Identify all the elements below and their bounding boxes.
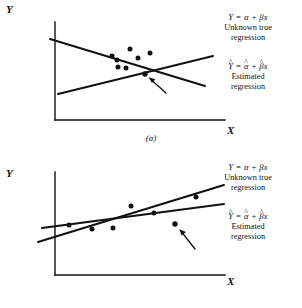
scatter-points-a: [110, 47, 153, 77]
formula-estimated-regression-a: ^Y = ^α + ^βx: [196, 61, 300, 71]
annotation-estimated-regression-a: ^Y = ^α + ^βx Estimated regression: [196, 61, 300, 92]
annotation-unknown-true-regression-a: Y = α + βx Unknown true regression: [196, 12, 300, 43]
data-point: [128, 47, 133, 52]
data-point-outlier: [142, 71, 147, 76]
data-point: [136, 56, 141, 61]
caption-line: Estimated: [196, 222, 300, 232]
data-point: [67, 223, 72, 228]
data-point: [110, 54, 115, 59]
caption-line: Unknown true: [196, 173, 300, 183]
panel-caption-a: (a): [0, 133, 302, 143]
caption-line: Estimated: [196, 72, 300, 82]
y-axis-label-b: Y: [6, 168, 13, 179]
caption-estimated-regression-a: Estimated regression: [196, 72, 300, 92]
annotation-estimated-regression-b: ^Y = ^α + ^βx Estimated regression: [196, 211, 300, 242]
caption-line: regression: [196, 33, 300, 43]
data-point-outlier: [172, 221, 177, 226]
data-point: [116, 65, 121, 70]
estimated-regression-line-a: [50, 39, 205, 86]
formula-true-regression-a: Y = α + βx: [196, 12, 300, 22]
true-regression-line-a: [58, 56, 213, 94]
outlier-arrow-b: [179, 229, 195, 249]
caption-unknown-true-regression-b: Unknown true regression: [196, 173, 300, 193]
data-point: [148, 51, 153, 56]
data-point: [194, 195, 199, 200]
data-point: [152, 211, 157, 216]
formula-true-regression-b: Y = α + βx: [196, 162, 300, 172]
caption-line: regression: [196, 183, 300, 193]
caption-line: regression: [196, 232, 300, 242]
annotation-unknown-true-regression-b: Y = α + βx Unknown true regression: [196, 162, 300, 193]
data-point: [90, 227, 95, 232]
data-point: [129, 204, 134, 209]
x-axis-label-b: X: [227, 276, 234, 287]
y-axis-label-a: Y: [6, 4, 13, 15]
data-point: [124, 66, 129, 71]
data-point: [111, 226, 116, 231]
formula-estimated-regression-b: ^Y = ^α + ^βx: [196, 211, 300, 221]
panel-a: Y X Y = α + βx Unknown true regression ^…: [0, 0, 302, 154]
caption-estimated-regression-b: Estimated regression: [196, 222, 300, 242]
caption-unknown-true-regression-a: Unknown true regression: [196, 23, 300, 43]
panel-b: Y X Y = α + βx Unknown true regression ^…: [0, 154, 302, 308]
regression-figure: Y X Y = α + βx Unknown true regression ^…: [0, 0, 302, 308]
data-point: [115, 58, 120, 63]
caption-line: Unknown true: [196, 23, 300, 33]
outlier-arrow-a: [149, 77, 167, 93]
caption-line: regression: [196, 82, 300, 92]
